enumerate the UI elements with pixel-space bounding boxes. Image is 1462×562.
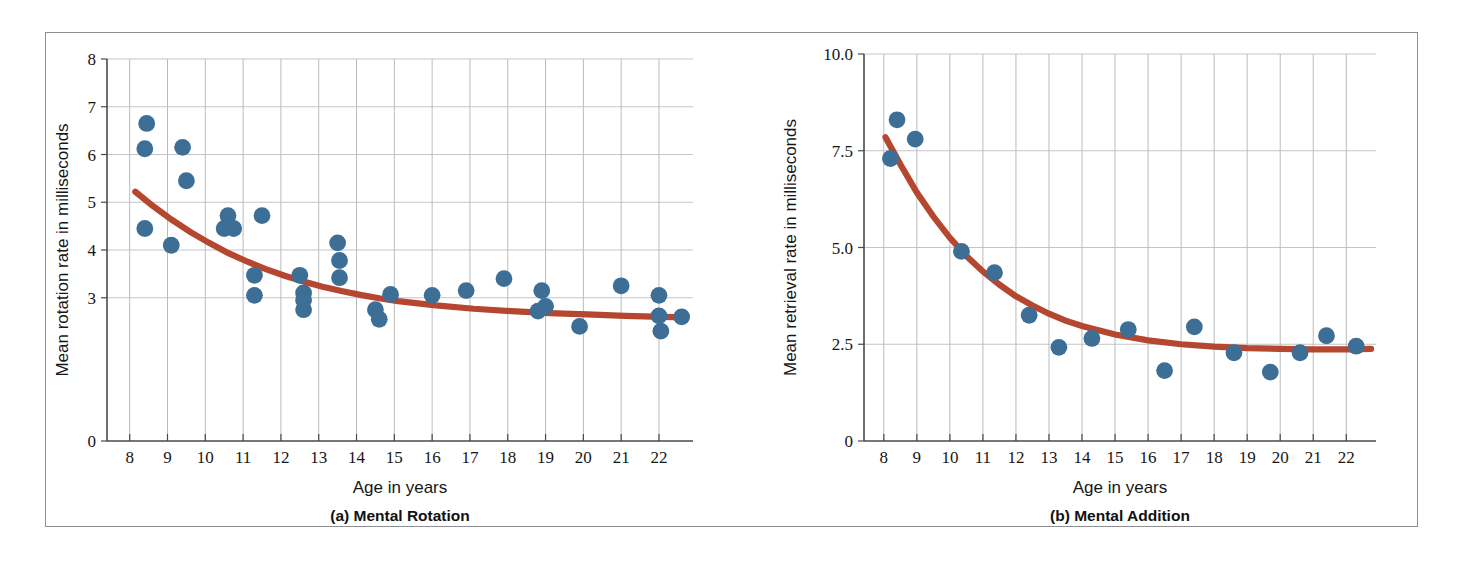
panel-caption: (b) Mental Addition (1050, 507, 1190, 524)
x-tick-label: 21 (613, 448, 630, 467)
data-point[interactable] (889, 111, 906, 128)
x-tick-label: 12 (1007, 448, 1024, 467)
y-axis-title: Mean retrieval rate in milliseconds (781, 119, 800, 376)
data-point[interactable] (1348, 338, 1365, 355)
panel-caption: (a) Mental Rotation (330, 507, 470, 524)
data-point[interactable] (882, 150, 899, 167)
x-tick-label: 11 (235, 448, 251, 467)
data-point[interactable] (1084, 330, 1101, 347)
x-tick-label: 11 (975, 448, 991, 467)
x-tick-label: 13 (310, 448, 327, 467)
data-point[interactable] (424, 287, 441, 304)
x-axis-title: Age in years (353, 478, 448, 497)
data-point[interactable] (138, 115, 155, 132)
x-tick-label: 20 (575, 448, 592, 467)
trend-curve (135, 192, 685, 318)
data-point[interactable] (953, 243, 970, 260)
scatter-plot-mental-addition: 02.55.07.510.089101112131415161718192021… (736, 33, 1419, 528)
data-point[interactable] (652, 323, 669, 340)
x-tick-label: 17 (461, 448, 479, 467)
data-point[interactable] (1021, 307, 1038, 324)
data-point[interactable] (986, 264, 1003, 281)
x-tick-label: 9 (163, 448, 172, 467)
y-tick-label: 2.5 (832, 335, 853, 354)
y-tick-label: 3 (88, 289, 97, 308)
chart-panel-mental-addition: 02.55.07.510.089101112131415161718192021… (736, 33, 1419, 526)
y-tick-label: 7.5 (832, 142, 853, 161)
x-tick-label: 16 (424, 448, 441, 467)
chart-panel-mental-rotation: 03456788910111213141516171819202122Mean … (46, 33, 736, 526)
x-tick-label: 22 (650, 448, 667, 467)
x-tick-label: 8 (125, 448, 134, 467)
y-tick-label: 6 (88, 146, 97, 165)
data-point[interactable] (458, 282, 475, 299)
x-tick-label: 8 (880, 448, 889, 467)
data-point[interactable] (225, 220, 242, 237)
y-tick-label: 4 (88, 241, 97, 260)
data-point[interactable] (613, 277, 630, 294)
y-tick-label: 5 (88, 193, 97, 212)
y-tick-label: 10.0 (823, 45, 853, 64)
x-tick-label: 15 (386, 448, 403, 467)
data-point[interactable] (907, 131, 924, 148)
x-tick-label: 21 (1305, 448, 1322, 467)
data-point[interactable] (295, 301, 312, 318)
y-tick-label: 0 (88, 432, 97, 451)
x-tick-label: 19 (537, 448, 554, 467)
data-point[interactable] (1318, 327, 1335, 344)
x-tick-label: 15 (1107, 448, 1124, 467)
x-tick-label: 18 (1206, 448, 1223, 467)
data-point[interactable] (254, 207, 271, 224)
y-tick-label: 8 (88, 50, 97, 69)
data-point[interactable] (246, 267, 263, 284)
figure-frame: 03456788910111213141516171819202122Mean … (45, 32, 1418, 527)
data-point[interactable] (651, 287, 668, 304)
data-point[interactable] (163, 237, 180, 254)
data-point[interactable] (174, 139, 191, 156)
data-point[interactable] (136, 220, 153, 237)
y-tick-label: 0 (845, 432, 854, 451)
data-point[interactable] (331, 269, 348, 286)
x-tick-label: 18 (499, 448, 516, 467)
data-point[interactable] (331, 252, 348, 269)
x-tick-label: 10 (197, 448, 214, 467)
x-axis-title: Age in years (1073, 478, 1168, 497)
data-point[interactable] (136, 140, 153, 157)
data-point[interactable] (246, 287, 263, 304)
data-point[interactable] (537, 298, 554, 315)
scatter-plot-mental-rotation: 03456788910111213141516171819202122Mean … (46, 33, 736, 528)
x-tick-label: 19 (1239, 448, 1256, 467)
y-tick-label: 7 (88, 98, 97, 117)
data-point[interactable] (1292, 344, 1309, 361)
x-tick-label: 20 (1272, 448, 1289, 467)
data-point[interactable] (1186, 318, 1203, 335)
x-tick-label: 22 (1338, 448, 1355, 467)
data-point[interactable] (329, 234, 346, 251)
x-tick-label: 16 (1140, 448, 1157, 467)
trend-curve (885, 137, 1371, 349)
data-point[interactable] (178, 172, 195, 189)
data-point[interactable] (382, 286, 399, 303)
x-tick-label: 10 (941, 448, 958, 467)
data-point[interactable] (1156, 362, 1173, 379)
y-tick-label: 5.0 (832, 239, 853, 258)
y-axis-title: Mean rotation rate in milliseconds (53, 123, 72, 376)
data-point[interactable] (571, 318, 588, 335)
data-point[interactable] (371, 311, 388, 328)
x-tick-label: 9 (913, 448, 922, 467)
x-tick-label: 12 (272, 448, 289, 467)
data-point[interactable] (1050, 339, 1067, 356)
data-point[interactable] (1120, 321, 1137, 338)
data-point[interactable] (291, 267, 308, 284)
data-point[interactable] (1226, 344, 1243, 361)
data-point[interactable] (651, 307, 668, 324)
data-point[interactable] (1262, 364, 1279, 381)
data-point[interactable] (496, 270, 513, 287)
x-tick-label: 13 (1040, 448, 1057, 467)
x-tick-label: 17 (1173, 448, 1191, 467)
x-tick-label: 14 (1074, 448, 1092, 467)
data-point[interactable] (673, 308, 690, 325)
data-point[interactable] (533, 282, 550, 299)
x-tick-label: 14 (348, 448, 366, 467)
